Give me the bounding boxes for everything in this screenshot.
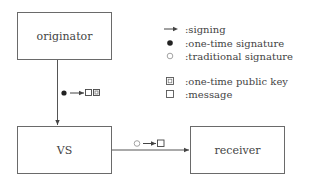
boxed-square-icon	[163, 75, 179, 87]
one-time-public-key-icon	[94, 90, 100, 96]
legend-item-traditional-signature: :traditional signature	[163, 50, 293, 62]
legend-item-signing: :signing	[163, 23, 226, 35]
traditional-signature-icon	[134, 141, 140, 147]
open-square-icon	[163, 88, 179, 100]
edge-vs-receiver-payload	[134, 140, 164, 147]
legend-item-one-time-public-key: :one-time public key	[163, 75, 288, 87]
one-time-signature-icon	[61, 90, 66, 95]
legend-item-one-time-signature: :one-time signature	[163, 37, 284, 49]
open-circle-icon	[163, 50, 179, 62]
legend-item-message: :message	[163, 88, 232, 100]
message-icon	[86, 90, 92, 96]
edge-originator-vs-payload	[61, 90, 99, 96]
message-icon	[158, 140, 165, 147]
diagram-edges	[0, 0, 314, 186]
filled-circle-icon	[163, 37, 179, 49]
arrow-icon	[163, 23, 179, 35]
